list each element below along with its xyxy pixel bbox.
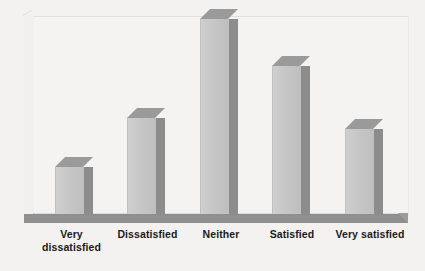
bar-dissatisfied[interactable] — [127, 16, 165, 214]
bar-side-face — [155, 118, 165, 214]
chart-right-border — [408, 16, 409, 216]
bar-top-face — [200, 9, 238, 19]
bar-top-face — [345, 119, 383, 129]
bar-front-face — [272, 66, 301, 214]
floor-plate-front — [24, 214, 408, 223]
chart-left-wall — [24, 16, 34, 223]
bar-satisfied[interactable] — [272, 16, 310, 214]
chart-screenshot: Very dissatisfied Dissatisfied Neither S… — [0, 0, 425, 271]
axis-label-line1: Very satisfied — [320, 228, 420, 241]
bar-front-face — [345, 129, 374, 214]
bar-very-satisfied[interactable] — [345, 16, 383, 214]
bar-side-face — [83, 167, 93, 214]
bar-very-dissatisfied[interactable] — [55, 16, 93, 214]
bar-side-face — [228, 19, 238, 214]
bar-top-face — [55, 157, 93, 167]
category-axis-labels: Very dissatisfied Dissatisfied Neither S… — [0, 228, 425, 271]
bar-top-face — [272, 56, 310, 66]
bar-front-face — [55, 167, 84, 214]
axis-label-line2: dissatisfied — [24, 241, 119, 254]
bar-front-face — [200, 19, 229, 214]
axis-label-very-satisfied: Very satisfied — [320, 228, 420, 241]
bar-top-face — [127, 108, 165, 118]
bar-neither[interactable] — [200, 16, 238, 214]
corner-diagonal — [23, 10, 35, 18]
bar-front-face — [127, 118, 156, 214]
bar-side-face — [300, 66, 310, 214]
bar-side-face — [373, 129, 383, 214]
